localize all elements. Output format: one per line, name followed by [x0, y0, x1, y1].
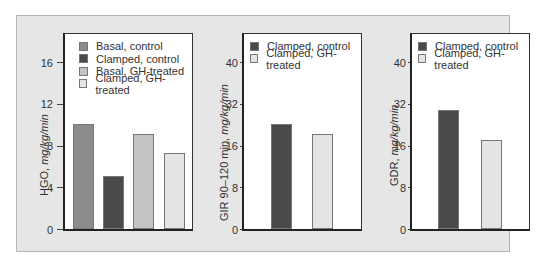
- y-tick: 32: [384, 99, 406, 110]
- y-tick: 12: [31, 99, 53, 110]
- swatch-clamped-gh: [79, 79, 87, 88]
- legend-label: Clamped, GH-treated: [434, 47, 529, 71]
- legend-item: Clamped, GH-treated: [79, 78, 192, 91]
- bar-basal-gh: [133, 134, 154, 229]
- swatch-basal-gh: [79, 67, 88, 76]
- legend: Clamped, control Clamped, GH-treated: [418, 40, 529, 65]
- y-tick: 0: [31, 225, 53, 236]
- bar-clamped-gh: [481, 140, 502, 229]
- figure-frame: HGO, mg/kg/min 16 12 8 4 0 Basal, contro…: [16, 15, 510, 252]
- y-tick: 16: [216, 141, 238, 152]
- plot-area: Clamped, control Clamped, GH-treated: [242, 33, 362, 231]
- y-tick: 16: [384, 141, 406, 152]
- y-tick: 8: [216, 183, 238, 194]
- legend: Basal, control Clamped, control Basal, G…: [79, 40, 192, 90]
- bar-clamped-gh: [312, 134, 333, 229]
- legend-label: Clamped, GH-treated: [95, 72, 192, 96]
- swatch-basal-control: [79, 42, 88, 51]
- legend: Clamped, control Clamped, GH-treated: [250, 40, 361, 65]
- y-tick: 8: [384, 183, 406, 194]
- bar-basal-control: [73, 124, 94, 229]
- legend-item: Clamped, GH-treated: [418, 53, 529, 66]
- swatch-clamped-control: [250, 42, 259, 51]
- y-tick: 40: [384, 58, 406, 69]
- y-tick: 40: [216, 58, 238, 69]
- bar-clamped-control: [271, 124, 292, 229]
- legend-item: Clamped, GH-treated: [250, 53, 361, 66]
- bar-clamped-control: [438, 110, 459, 229]
- swatch-clamped-control: [418, 42, 427, 51]
- swatch-clamped-gh: [250, 54, 258, 63]
- y-tick: 0: [384, 225, 406, 236]
- legend-label: Basal, control: [96, 40, 163, 52]
- plot-area: Basal, control Clamped, control Basal, G…: [63, 33, 193, 231]
- plot-area: Clamped, control Clamped, GH-treated: [410, 33, 530, 231]
- legend-item: Basal, control: [79, 40, 192, 53]
- bar-clamped-gh: [164, 153, 185, 229]
- legend-item: Clamped, control: [79, 53, 192, 66]
- bar-clamped-control: [103, 176, 124, 229]
- legend-label: Clamped, GH-treated: [266, 47, 361, 71]
- swatch-clamped-control: [79, 54, 88, 63]
- legend-label: Clamped, control: [96, 53, 179, 65]
- y-tick: 16: [31, 58, 53, 69]
- y-tick: 8: [31, 141, 53, 152]
- y-tick: 0: [216, 225, 238, 236]
- y-tick: 32: [216, 99, 238, 110]
- swatch-clamped-gh: [418, 54, 426, 63]
- y-tick: 4: [31, 183, 53, 194]
